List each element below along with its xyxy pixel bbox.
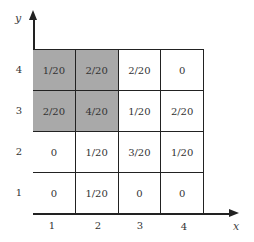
cell-x3-y1: 0 — [119, 172, 162, 213]
cell-x2-y1: 1/20 — [76, 172, 119, 213]
x-axis — [33, 213, 229, 215]
y-tick-1: 1 — [9, 187, 29, 198]
cell-x4-y4: 0 — [161, 49, 204, 90]
x-axis-label: x — [233, 220, 239, 233]
cell-x1-y3: 2/20 — [33, 90, 76, 131]
cell-x4-y1: 0 — [161, 172, 204, 213]
cell-x2-y2: 1/20 — [76, 131, 119, 172]
cell-x3-y3: 1/20 — [119, 90, 162, 131]
cell-x1-y2: 0 — [33, 131, 76, 172]
cell-x4-y2: 1/20 — [161, 131, 204, 172]
y-tick-2: 2 — [9, 146, 29, 157]
x-tick-1: 1 — [42, 220, 62, 231]
x-tick-2: 2 — [88, 220, 108, 231]
cell-x2-y4: 2/20 — [76, 49, 119, 90]
x-tick-4: 4 — [174, 221, 194, 232]
y-tick-3: 3 — [9, 105, 29, 116]
cell-x2-y3: 4/20 — [76, 90, 119, 131]
cell-x4-y3: 2/20 — [161, 90, 204, 131]
y-axis-arrow-icon — [29, 10, 37, 20]
cell-x3-y4: 2/20 — [119, 49, 162, 90]
y-tick-4: 4 — [9, 64, 29, 75]
y-axis-label: y — [15, 12, 21, 25]
probability-grid: 1/20 2/20 2/20 0 2/20 4/20 1/20 2/20 0 1… — [33, 49, 204, 213]
cell-x1-y4: 1/20 — [33, 49, 76, 90]
x-tick-3: 3 — [130, 220, 150, 231]
x-axis-arrow-icon — [229, 209, 239, 217]
cell-x1-y1: 0 — [33, 172, 76, 213]
cell-x3-y2: 3/20 — [119, 131, 162, 172]
